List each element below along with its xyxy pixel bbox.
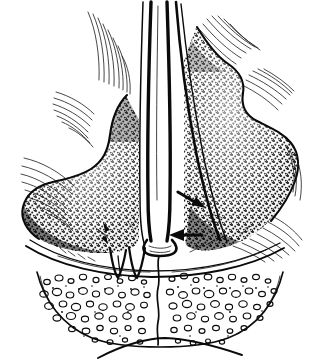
anatomical-figure: Coronal section of the nasal cavity (0, 0, 319, 362)
nasal-cavity-coronal-illustration (0, 0, 319, 362)
